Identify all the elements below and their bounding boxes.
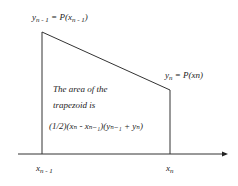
label-x-n-minus-1: xn - 1 xyxy=(36,164,53,175)
area-text-line2: trapezoid is xyxy=(53,101,95,110)
label-y-n: yn = P(xn) xyxy=(165,71,203,82)
top-edge xyxy=(42,32,170,90)
label-y-n-minus-1: yn - 1 = P(xn - 1) xyxy=(32,13,88,24)
area-text-line1: The area of the xyxy=(53,85,107,94)
trapezoid-diagram xyxy=(0,0,238,186)
axis-arrow-icon xyxy=(222,152,228,157)
label-x-n: xn xyxy=(166,164,174,175)
area-formula: (1/2)(xₙ - xₙ₋₁)(yₙ₋₁ + yₙ) xyxy=(49,122,143,131)
